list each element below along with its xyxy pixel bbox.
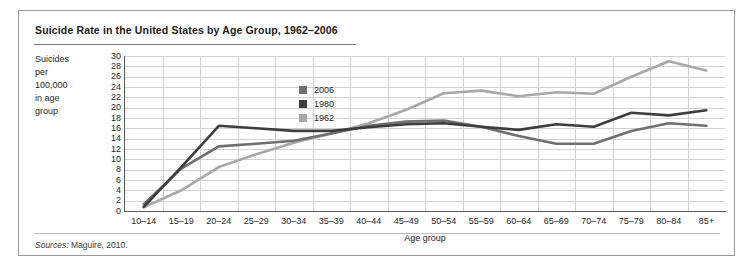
y-axis-tick-label: 28 xyxy=(99,62,121,71)
y-axis-caption-line: in age xyxy=(35,92,101,105)
y-axis-caption-line: Suicides xyxy=(35,53,101,66)
legend-item[interactable]: 1980 xyxy=(299,97,334,111)
x-axis-title: Age group xyxy=(125,233,725,243)
y-axis-caption-line: group xyxy=(35,105,101,118)
figure-panel: Suicide Rate in the United States by Age… xyxy=(18,10,735,256)
sources-text: Maguire, 2010. xyxy=(69,240,128,250)
y-axis-tick-label: 22 xyxy=(99,93,121,102)
y-axis-caption-line: 100,000 xyxy=(35,79,101,92)
y-axis-caption: Suicides per 100,000 in age group xyxy=(35,53,101,118)
y-axis-tick-label: 6 xyxy=(99,176,121,185)
y-axis-tick-label: 16 xyxy=(99,124,121,133)
series-lines xyxy=(125,56,725,211)
y-axis-tick-label: 10 xyxy=(99,155,121,164)
legend-swatch-icon xyxy=(299,114,307,122)
sources-note: Sources: Maguire, 2010. xyxy=(35,240,128,250)
plot-area xyxy=(125,56,725,211)
y-axis-tick-label: 4 xyxy=(99,186,121,195)
y-axis-tick-label: 24 xyxy=(99,83,121,92)
y-axis-tick-label: 18 xyxy=(99,114,121,123)
y-axis-tick-label: 8 xyxy=(99,165,121,174)
legend-item-label: 2006 xyxy=(314,85,334,95)
y-axis-tick-label: 20 xyxy=(99,103,121,112)
y-axis-tick-labels: 302826242220181614121086420 xyxy=(97,56,121,211)
legend-item[interactable]: 2006 xyxy=(299,83,334,97)
y-axis-caption-line: per xyxy=(35,66,101,79)
legend-swatch-icon xyxy=(299,86,307,94)
legend-item-label: 1980 xyxy=(314,99,334,109)
x-axis-line xyxy=(124,211,726,212)
series-line-2006 xyxy=(144,121,707,205)
y-axis-tick-label: 2 xyxy=(99,196,121,205)
legend-item-label: 1962 xyxy=(314,113,334,123)
legend-swatch-icon xyxy=(299,100,307,108)
y-axis-tick-label: 0 xyxy=(99,207,121,216)
x-axis-tick-labels: 10–1415–1920–2425–2930–3435–3940–4445–49… xyxy=(125,216,725,230)
legend-item[interactable]: 1962 xyxy=(299,111,334,125)
y-axis-tick-label: 26 xyxy=(99,72,121,81)
x-axis-tick-label: 85+ xyxy=(681,216,731,226)
y-axis-tick-label: 14 xyxy=(99,134,121,143)
sources-label: Sources: xyxy=(35,240,69,250)
page-title: Suicide Rate in the United States by Age… xyxy=(35,24,338,36)
series-line-1980 xyxy=(144,110,707,207)
title-divider xyxy=(34,44,356,45)
y-axis-tick-label: 30 xyxy=(99,52,121,61)
y-axis-tick-label: 12 xyxy=(99,145,121,154)
legend: 200619801962 xyxy=(299,83,334,125)
footer-divider xyxy=(34,233,720,234)
